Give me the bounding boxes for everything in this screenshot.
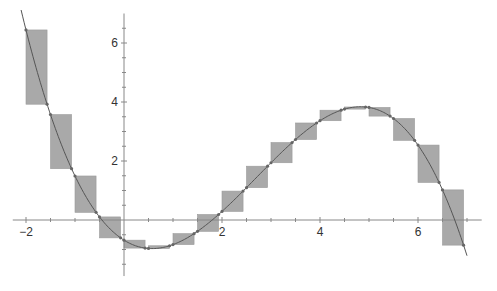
axes-layer: [13, 14, 482, 277]
sample-point: [241, 189, 244, 192]
sample-point: [73, 174, 76, 177]
sample-point: [290, 141, 293, 144]
sample-point: [94, 211, 97, 214]
sample-point: [339, 109, 342, 112]
sample-point: [220, 210, 223, 213]
y-tick-label: 2: [111, 154, 118, 168]
sample-point: [416, 143, 419, 146]
y-tick-label: 4: [111, 95, 118, 109]
sample-point: [171, 243, 174, 246]
sample-point: [70, 167, 73, 170]
sample-point: [24, 28, 27, 31]
sample-point: [364, 105, 367, 108]
sample-point: [49, 113, 52, 116]
sample-point: [147, 247, 150, 250]
sample-point: [45, 103, 48, 106]
rectangle-14: [369, 107, 390, 116]
sample-point: [392, 117, 395, 120]
sample-point: [98, 215, 101, 218]
rectangle-4: [124, 240, 145, 248]
x-tick-label: 4: [317, 225, 324, 239]
chart: −2246246: [0, 0, 497, 291]
sample-point: [143, 246, 146, 249]
sample-point: [192, 232, 195, 235]
x-tick-label: 2: [219, 225, 226, 239]
sample-point: [266, 165, 269, 168]
rectangle-15: [394, 119, 415, 141]
x-tick-label: −2: [19, 225, 33, 239]
sample-point: [318, 119, 321, 122]
sample-point: [388, 115, 391, 118]
sample-point: [343, 108, 346, 111]
sample-point: [441, 188, 444, 191]
sample-point: [413, 139, 416, 142]
sample-point: [437, 181, 440, 184]
x-tick-label: 6: [415, 225, 422, 239]
sample-point: [315, 121, 318, 124]
sample-point: [168, 244, 171, 247]
y-tick-label: 6: [111, 36, 118, 50]
sample-point: [294, 138, 297, 141]
sample-point: [119, 236, 122, 239]
sample-point: [196, 230, 199, 233]
sample-point: [122, 239, 125, 242]
sample-point: [367, 106, 370, 109]
sample-point: [245, 186, 248, 189]
sample-point: [462, 244, 465, 247]
sample-point: [217, 213, 220, 216]
sample-point: [269, 161, 272, 164]
rectangles-layer: [26, 30, 464, 249]
